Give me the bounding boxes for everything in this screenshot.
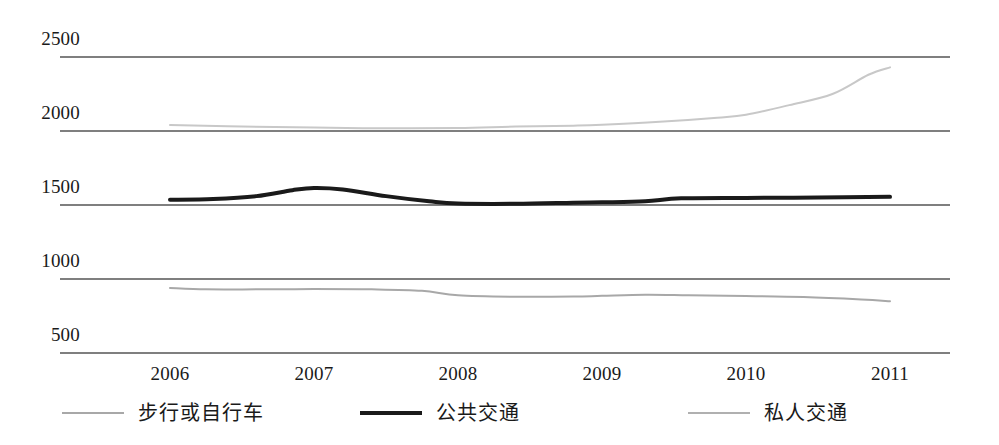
- x-axis-tick-label: 2008: [418, 364, 498, 383]
- x-axis-tick-label: 2007: [274, 364, 354, 383]
- chart-legend: 步行或自行车公共交通私人交通: [0, 398, 999, 438]
- series-line: [170, 67, 890, 128]
- x-axis-tick-label: 2010: [706, 364, 786, 383]
- y-axis-tick-label: 500: [20, 325, 80, 344]
- y-axis-tick-label: 2000: [20, 103, 80, 122]
- legend-item[interactable]: 私人交通: [688, 398, 848, 428]
- x-axis-tick-label: 2009: [562, 364, 642, 383]
- series-line: [170, 188, 890, 204]
- y-axis-tick-label: 1500: [20, 177, 80, 196]
- legend-label: 步行或自行车: [138, 401, 264, 425]
- x-axis-tick-label: 2011: [850, 364, 930, 383]
- y-axis-tick-label: 2500: [20, 29, 80, 48]
- legend-label: 公共交通: [436, 401, 520, 425]
- legend-label: 私人交通: [764, 401, 848, 425]
- x-axis-tick-label: 2006: [130, 364, 210, 383]
- y-axis-tick-label: 1000: [20, 251, 80, 270]
- legend-line-swatch: [688, 412, 750, 414]
- legend-line-swatch: [62, 412, 124, 414]
- legend-line-swatch: [360, 411, 422, 415]
- series-lines: [170, 67, 890, 301]
- line-chart: 2500200015001000500 20062007200820092010…: [0, 0, 999, 445]
- series-line: [170, 288, 890, 301]
- legend-item[interactable]: 公共交通: [360, 398, 520, 428]
- legend-item[interactable]: 步行或自行车: [62, 398, 264, 428]
